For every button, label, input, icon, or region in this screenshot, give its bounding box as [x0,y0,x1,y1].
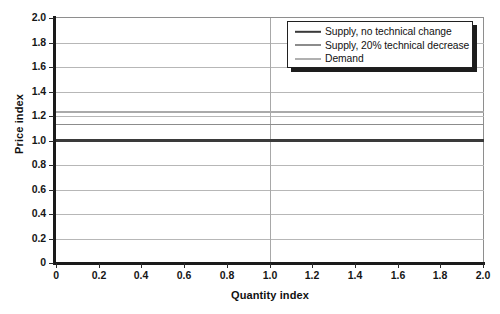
chart-container: 00.20.40.60.81.01.21.41.61.82.0 00.20.40… [0,0,500,314]
x-tick-label-0.4: 0.4 [121,269,161,281]
y-tick-label-0: 0 [0,256,46,268]
y-tick-mark-0.6 [49,190,54,191]
y-tick-mark-1.4 [49,92,54,93]
x-tick-label-0.2: 0.2 [79,269,119,281]
y-axis-title: Price index [13,59,25,189]
legend-line-swatch-icon [295,52,321,65]
x-tick-label-0.6: 0.6 [164,269,204,281]
legend-item-2: Demand [292,52,468,66]
x-axis-title: Quantity index [56,289,484,301]
x-tick-label-1.0: 1.0 [250,269,290,281]
y-tick-mark-0.8 [49,165,54,166]
x-tick-mark-2.0 [483,263,484,268]
x-tick-label-2.0: 2.0 [463,269,500,281]
y-tick-mark-1.0 [49,141,54,142]
y-tick-mark-0.2 [49,239,54,240]
legend-item-label: Supply, 20% technical decrease [325,39,469,52]
y-tick-label-2.0: 2.0 [0,11,46,23]
x-tick-mark-1.4 [355,263,356,268]
x-tick-mark-1.2 [312,263,313,268]
series-line-0 [56,139,484,141]
legend-line-swatch-icon [295,39,321,52]
x-tick-label-0.8: 0.8 [207,269,247,281]
x-tick-label-0: 0 [36,269,76,281]
legend-item-1: Supply, 20% technical decrease [292,39,468,53]
chart-legend: Supply, no technical changeSupply, 20% t… [287,21,473,68]
legend-line-swatch-icon [295,25,321,38]
y-tick-label-0.4: 0.4 [0,207,46,219]
y-tick-mark-1.6 [49,67,54,68]
legend-item-0: Supply, no technical change [292,25,468,39]
x-tick-label-1.8: 1.8 [420,269,460,281]
y-tick-mark-0.4 [49,214,54,215]
y-tick-label-0.2: 0.2 [0,232,46,244]
x-tick-mark-0.2 [99,263,100,268]
x-tick-mark-0.6 [184,263,185,268]
x-tick-label-1.6: 1.6 [378,269,418,281]
y-tick-label-1.8: 1.8 [0,36,46,48]
series-line-2 [56,111,484,113]
x-tick-mark-1.6 [398,263,399,268]
y-tick-mark-2.0 [49,18,54,19]
y-tick-mark-1.8 [49,43,54,44]
series-line-1 [56,124,484,126]
y-tick-mark-1.2 [49,116,54,117]
x-tick-label-1.4: 1.4 [335,269,375,281]
x-tick-mark-0 [56,263,57,268]
y-tick-mark-0 [49,263,54,264]
x-tick-mark-0.8 [227,263,228,268]
x-tick-label-1.2: 1.2 [292,269,332,281]
legend-item-label: Demand [325,52,364,65]
legend-item-label: Supply, no technical change [325,25,452,38]
x-tick-mark-1.0 [270,263,271,268]
x-tick-mark-0.4 [141,263,142,268]
x-tick-mark-1.8 [440,263,441,268]
x-axis-line [53,262,485,265]
